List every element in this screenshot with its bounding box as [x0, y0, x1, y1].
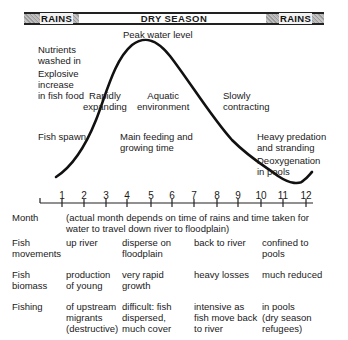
month-tick-9: 9 — [230, 190, 246, 201]
explosive-increase-label: Explosive increase in fish food — [38, 68, 84, 101]
fish-biomass-cell-4: much reduced — [262, 269, 322, 280]
fishing-cell-4: in pools (dry season refugees) — [262, 301, 348, 334]
month-tick-6: 6 — [164, 190, 180, 201]
fish-biomass-cell-3: heavy losses — [194, 269, 249, 280]
rapidly-expanding-label: Rapidly expanding — [83, 90, 127, 112]
month-tick-10: 10 — [253, 190, 269, 201]
fishing-label: Fishing — [12, 301, 43, 312]
fish-movements-cell-4: confined to pools — [262, 237, 308, 259]
deoxygenation-label: Deoxygenation in pools — [257, 155, 320, 177]
fish-movements-cell-3: back to river — [194, 237, 246, 248]
month-note: (actual month depends on time of rains a… — [66, 212, 309, 234]
fish-biomass-label: Fish biomass — [12, 269, 47, 291]
month-tick-11: 11 — [275, 190, 291, 201]
fish-movements-cell-2: disperse on floodplain — [122, 237, 171, 259]
fishing-cell-3: intensive as fish move back to river — [194, 301, 257, 334]
month-tick-5: 5 — [143, 190, 159, 201]
month-tick-3: 3 — [98, 190, 114, 201]
nutrients-label: Nutrients washed in — [38, 44, 81, 66]
heavy-predation-label: Heavy predation and stranding — [257, 131, 326, 153]
fishing-cell-2: difficult: fish dispersed, much cover — [122, 301, 171, 334]
month-tick-12: 12 — [298, 190, 314, 201]
month-row-label: Month — [12, 212, 38, 223]
peak-water-label: Peak water level — [123, 29, 193, 40]
month-tick-2: 2 — [76, 190, 92, 201]
fish-movements-label: Fish movements — [12, 237, 61, 259]
fish-biomass-cell-2: very rapid growth — [122, 269, 164, 291]
fish-movements-cell-1: up river — [66, 237, 98, 248]
month-tick-1: 1 — [54, 190, 70, 201]
main-feeding-label: Main feeding and growing time — [120, 131, 193, 153]
fishing-cell-1: of upstream migrants (destructive) — [66, 301, 118, 334]
fish-biomass-cell-1: production of young — [66, 269, 110, 291]
month-tick-8: 8 — [209, 190, 225, 201]
aquatic-environment-label: Aquatic environment — [137, 90, 189, 112]
month-tick-7: 7 — [186, 190, 202, 201]
fish-spawn-label: Fish spawn — [38, 131, 86, 142]
month-tick-4: 4 — [119, 190, 135, 201]
slowly-contracting-label: Slowly contracting — [223, 90, 269, 112]
